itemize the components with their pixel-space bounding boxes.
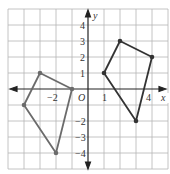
x-tick-label: 4	[146, 92, 151, 103]
coordinate-plane: y x O −2 1 4 4 3 2 1 −2 −3 −4	[0, 0, 170, 174]
right-quadrilateral	[102, 39, 155, 124]
y-tick-label: −3	[75, 132, 86, 143]
vertex-point	[54, 151, 59, 156]
y-tick-label: 4	[80, 20, 85, 31]
vertex-point	[134, 119, 139, 124]
vertex-point	[102, 71, 107, 76]
vertex-point	[150, 55, 155, 60]
vertex-point	[22, 103, 27, 108]
y-tick-label: 3	[80, 36, 85, 47]
origin-label: O	[78, 92, 85, 103]
y-tick-label: 1	[80, 68, 85, 79]
y-tick-label: 2	[80, 52, 85, 63]
x-axis-label: x	[160, 92, 166, 103]
y-axis-label: y	[92, 10, 98, 21]
vertex-point	[118, 39, 123, 44]
x-tick-label: 1	[102, 92, 107, 103]
vertex-point	[38, 71, 43, 76]
left-quadrilateral	[22, 71, 75, 156]
x-tick-label: −2	[47, 92, 58, 103]
y-tick-label: −4	[75, 148, 86, 159]
y-tick-label: −2	[75, 116, 86, 127]
vertex-point	[70, 87, 75, 92]
